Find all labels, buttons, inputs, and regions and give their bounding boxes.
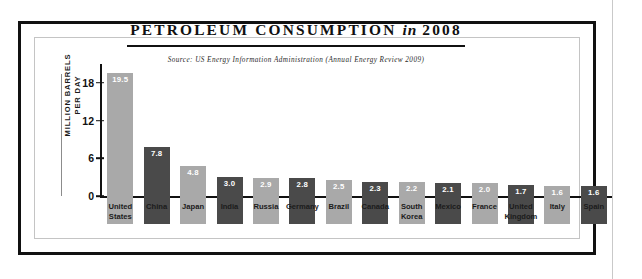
bar-column[interactable]: 1.6 (544, 64, 570, 224)
bar-value-label: 2.9 (253, 180, 279, 189)
bar-value-label: 3.0 (217, 179, 243, 188)
y-axis-tick-mark (96, 120, 104, 122)
plot-area: 19.57.84.83.02.92.82.52.32.22.12.01.71.6… (102, 64, 612, 224)
bar-column[interactable]: 2.9 (253, 64, 279, 224)
bar-value-label: 19.5 (107, 75, 133, 84)
page-title: PETROLEUM CONSUMPTION in 2008 (122, 21, 470, 39)
y-tick-label: 0 (72, 190, 94, 202)
y-tick-label: 12 (72, 115, 94, 127)
bar-column[interactable]: 2.8 (289, 64, 315, 224)
bar-value-label: 2.8 (289, 180, 315, 189)
bar-column[interactable]: 2.0 (472, 64, 498, 224)
bar-column[interactable]: 1.6 (581, 64, 607, 224)
chart-source-note: Source: US Energy Information Administra… (122, 56, 470, 64)
y-axis-tick-labels: 061218 (72, 67, 94, 207)
y-axis-title-rule (61, 74, 62, 196)
bar-value-label: 2.2 (399, 184, 425, 193)
y-axis-tick-mark (96, 195, 104, 197)
chart-title-block: PETROLEUM CONSUMPTION in 2008 Source: US… (122, 21, 470, 64)
chart-title-in: in (403, 21, 423, 38)
bar-value-label: 4.8 (180, 168, 206, 177)
bar-value-label: 2.5 (326, 182, 352, 191)
x-axis-category-labels: United StatesChinaJapanIndiaRussiaGerman… (102, 202, 612, 232)
bar-column[interactable]: 2.3 (362, 64, 388, 224)
bar-chart: MILLION BARRELS PER DAY 061218 19.57.84.… (34, 37, 580, 239)
y-tick-label: 6 (72, 152, 94, 164)
x-axis-label: Spain (567, 202, 621, 212)
bar-value-label: 2.3 (362, 184, 388, 193)
page-edge-line (612, 0, 613, 279)
bar-column[interactable]: 1.7 (508, 64, 534, 224)
title-divider (127, 45, 465, 47)
bar-column[interactable]: 4.8 (180, 64, 206, 224)
chart-title-year: 2008 (422, 21, 462, 38)
y-axis-tick-mark (96, 82, 104, 84)
bar-value-label: 7.8 (144, 149, 170, 158)
bar-value-label: 1.6 (544, 188, 570, 197)
bar-column[interactable]: 2.1 (435, 64, 461, 224)
bar-column[interactable]: 2.5 (326, 64, 352, 224)
bar-column[interactable]: 3.0 (217, 64, 243, 224)
y-axis-tick-mark (96, 157, 104, 159)
bar-value-label: 2.1 (435, 185, 461, 194)
bar-value-label: 2.0 (472, 185, 498, 194)
bar-value-label: 1.7 (508, 187, 534, 196)
bar-column[interactable]: 7.8 (144, 64, 170, 224)
bar-value-label: 1.6 (581, 188, 607, 197)
bar-column[interactable]: 2.2 (399, 64, 425, 224)
y-tick-label: 18 (72, 77, 94, 89)
bar-column[interactable]: 19.5 (107, 64, 133, 224)
chart-title-main: PETROLEUM CONSUMPTION (130, 21, 402, 38)
